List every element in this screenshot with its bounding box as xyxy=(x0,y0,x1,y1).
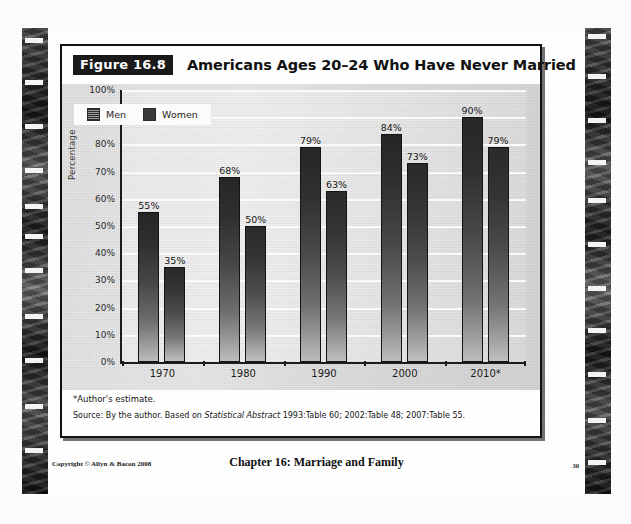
x-axis-tick-labels: 19701980199020002010* xyxy=(122,366,526,384)
y-axis-tick-labels: 100%90%80%70%60%50%40%30%20%10%0% xyxy=(78,90,118,362)
y-axis-tick-10: 10% xyxy=(95,330,115,340)
figure-number-badge: Figure 16.8 xyxy=(73,55,173,75)
bar-value-label: 79% xyxy=(488,135,509,146)
bar-value-label: 35% xyxy=(164,255,185,266)
x-axis-tick-2000: 2000 xyxy=(392,368,417,379)
bar-group-2010: 90%79% xyxy=(445,90,526,362)
bar-value-label: 68% xyxy=(219,165,240,176)
x-axis-tick-mark xyxy=(122,361,124,366)
y-axis-tick-100: 100% xyxy=(89,85,115,95)
figure-panel: Figure 16.8 Americans Ages 20–24 Who Hav… xyxy=(60,44,542,438)
film-strip-right-decoration xyxy=(585,28,611,494)
chart-region: Percentage 100%90%80%70%60%50%40%30%20%1… xyxy=(62,84,540,390)
x-axis-tick-1970: 1970 xyxy=(150,368,175,379)
y-axis-tick-20: 20% xyxy=(95,303,115,313)
y-axis-tick-80: 80% xyxy=(95,139,115,149)
bar-women-2010: 79% xyxy=(488,147,509,362)
chart-legend: Men Women xyxy=(74,104,211,125)
bar-group-1980: 68%50% xyxy=(203,90,284,362)
bar-value-label: 90% xyxy=(462,105,483,116)
y-axis-tick-0: 0% xyxy=(101,357,115,367)
legend-label-men: Men xyxy=(106,109,126,120)
bar-women-1970: 35% xyxy=(164,267,185,362)
bar-women-1990: 63% xyxy=(326,191,347,362)
x-axis-tick-mark xyxy=(284,361,286,366)
chapter-title: Chapter 16: Marriage and Family xyxy=(48,455,585,470)
bar-value-label: 84% xyxy=(381,122,402,133)
y-axis-tick-70: 70% xyxy=(95,167,115,177)
bar-women-1980: 50% xyxy=(245,226,266,362)
x-axis-tick-2010: 2010* xyxy=(470,368,500,379)
x-axis-tick-1990: 1990 xyxy=(311,368,336,379)
slide-page-number: 30 xyxy=(573,462,580,469)
bar-value-label: 73% xyxy=(407,151,428,162)
bar-men-2010: 90% xyxy=(462,117,483,362)
y-axis-tick-40: 40% xyxy=(95,248,115,258)
bar-men-2000: 84% xyxy=(381,134,402,362)
figure-footnote: *Author's estimate. xyxy=(73,394,540,404)
legend-entry-women: Women xyxy=(143,108,198,121)
x-axis-tick-mark xyxy=(364,361,366,366)
legend-swatch-women-icon xyxy=(143,108,156,121)
source-publication-title: Statistical Abstract xyxy=(204,411,280,420)
bar-group-1990: 79%63% xyxy=(284,90,365,362)
legend-label-women: Women xyxy=(162,109,198,120)
x-axis-tick-mark xyxy=(445,361,447,366)
plot-area: 55%35%68%50%79%63%84%73%90%79% xyxy=(120,90,526,364)
y-axis-tick-50: 50% xyxy=(95,221,115,231)
film-noise-left xyxy=(22,28,48,494)
x-axis-tick-1980: 1980 xyxy=(230,368,255,379)
legend-entry-men: Men xyxy=(87,108,126,121)
figure-title-row: Figure 16.8 Americans Ages 20–24 Who Hav… xyxy=(62,46,540,84)
bar-men-1970: 55% xyxy=(138,212,159,362)
source-suffix: 1993:Table 60; 2002:Table 48; 2007:Table… xyxy=(280,411,465,420)
bar-value-label: 79% xyxy=(300,135,321,146)
y-axis-tick-30: 30% xyxy=(95,275,115,285)
scanned-page: Figure 16.8 Americans Ages 20–24 Who Hav… xyxy=(0,0,631,524)
bar-value-label: 55% xyxy=(138,200,159,211)
legend-swatch-men-icon xyxy=(87,108,100,121)
plot-inner: 55%35%68%50%79%63%84%73%90%79% xyxy=(122,90,526,362)
source-prefix: Source: By the author. Based on xyxy=(73,411,204,420)
film-strip-left-decoration xyxy=(22,28,48,494)
bar-group-2000: 84%73% xyxy=(364,90,445,362)
bar-women-2000: 73% xyxy=(407,163,428,362)
bar-men-1980: 68% xyxy=(219,177,240,362)
slide-footer: Copyright © Allyn & Bacon 2008 Chapter 1… xyxy=(48,452,585,480)
film-noise-right xyxy=(585,28,611,494)
x-axis-tick-mark xyxy=(203,361,205,366)
y-axis-tick-60: 60% xyxy=(95,194,115,204)
x-axis-tick-mark xyxy=(524,361,526,366)
figure-title: Americans Ages 20–24 Who Have Never Marr… xyxy=(187,57,576,73)
y-axis-title: Percentage xyxy=(67,129,77,180)
bar-value-label: 50% xyxy=(245,214,266,225)
bar-value-label: 63% xyxy=(326,179,347,190)
figure-notes: *Author's estimate. Source: By the autho… xyxy=(62,390,540,434)
bar-men-1990: 79% xyxy=(300,147,321,362)
bar-group-1970: 55%35% xyxy=(122,90,203,362)
figure-source-line: Source: By the author. Based on Statisti… xyxy=(73,411,540,420)
presentation-slide: Figure 16.8 Americans Ages 20–24 Who Hav… xyxy=(48,32,585,490)
